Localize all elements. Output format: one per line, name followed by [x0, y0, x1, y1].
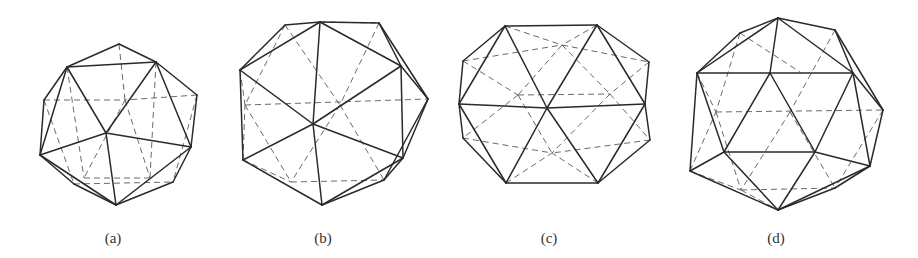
- visible-edge: [547, 108, 598, 183]
- visible-edge: [44, 67, 67, 100]
- hidden-edge: [518, 95, 552, 153]
- visible-edge: [67, 44, 119, 67]
- visible-edge: [119, 44, 156, 62]
- hidden-edge: [518, 45, 562, 95]
- visible-edge: [40, 155, 116, 205]
- polyhedra-figure: [0, 0, 918, 258]
- caption-a: (a): [105, 230, 122, 247]
- panel-d-polyhedron: [690, 18, 883, 210]
- visible-edge: [598, 140, 650, 183]
- visible-edge: [191, 95, 197, 147]
- visible-edge: [313, 22, 320, 124]
- hidden-edge: [245, 25, 285, 105]
- visible-edge: [853, 73, 870, 166]
- visible-edge: [724, 73, 770, 152]
- visible-edge: [173, 147, 191, 182]
- hidden-edge: [173, 95, 197, 182]
- visible-edge: [835, 30, 883, 110]
- hidden-edge: [716, 112, 741, 190]
- hidden-edge: [285, 25, 340, 105]
- visible-edge: [320, 22, 401, 66]
- hidden-edge: [67, 67, 84, 178]
- visible-edge: [106, 62, 156, 133]
- visible-edge: [40, 67, 67, 155]
- hidden-edge: [463, 138, 552, 153]
- hidden-edge: [697, 73, 716, 112]
- panel-a-polyhedron: [40, 44, 197, 205]
- visible-edge: [459, 104, 547, 108]
- visible-edge: [106, 133, 116, 205]
- visible-edge: [853, 73, 883, 110]
- hidden-edge: [552, 94, 610, 153]
- visible-edge: [74, 184, 116, 205]
- visible-edge: [403, 99, 428, 158]
- hidden-edge: [716, 110, 883, 112]
- hidden-edge: [119, 44, 125, 100]
- visible-edge: [243, 160, 322, 205]
- visible-edge: [506, 108, 547, 183]
- visible-edge: [690, 171, 778, 210]
- hidden-edge: [150, 62, 156, 178]
- hidden-edge: [610, 94, 650, 140]
- hidden-edge: [518, 94, 610, 95]
- visible-edge: [597, 25, 645, 104]
- hidden-edge: [463, 95, 518, 138]
- visible-edge: [547, 25, 597, 108]
- caption-b: (b): [314, 230, 332, 247]
- visible-edge: [724, 152, 778, 210]
- panel-c-polyhedron: [459, 25, 650, 183]
- hidden-edge: [790, 30, 835, 112]
- visible-edge: [459, 26, 505, 104]
- visible-edge: [116, 182, 173, 205]
- visible-edge: [778, 188, 835, 210]
- visible-edge: [384, 99, 428, 180]
- hidden-edge: [835, 110, 883, 188]
- hidden-edge: [740, 33, 800, 72]
- visible-edge: [598, 104, 645, 183]
- visible-edge: [815, 152, 870, 166]
- visible-edge: [505, 26, 547, 108]
- visible-edge: [690, 152, 724, 171]
- hidden-edge: [125, 95, 197, 100]
- visible-edge: [156, 62, 191, 147]
- panel-b-polyhedron: [240, 22, 428, 205]
- hidden-edge: [463, 45, 562, 61]
- hidden-edge: [552, 153, 598, 183]
- visible-edge: [313, 124, 403, 158]
- visible-edge: [320, 22, 379, 23]
- visible-edge: [870, 110, 883, 166]
- visible-edge: [463, 26, 505, 61]
- hidden-edge: [463, 61, 518, 95]
- visible-edge: [67, 67, 106, 133]
- caption-d: (d): [767, 230, 785, 247]
- caption-c: (c): [541, 230, 558, 247]
- visible-edge: [547, 104, 645, 108]
- visible-edge: [645, 62, 649, 104]
- visible-edge: [313, 66, 401, 124]
- hidden-edge: [506, 153, 552, 183]
- visible-edge: [463, 138, 506, 183]
- visible-edge: [697, 18, 778, 73]
- hidden-edge: [562, 45, 610, 94]
- visible-edge: [505, 25, 597, 26]
- visible-edge: [459, 104, 506, 183]
- hidden-edge: [291, 180, 384, 182]
- visible-edge: [401, 66, 428, 99]
- hidden-edge: [245, 105, 291, 182]
- visible-edge: [67, 62, 156, 67]
- visible-edge: [243, 124, 313, 160]
- visible-edge: [770, 73, 815, 152]
- visible-edge: [835, 166, 870, 188]
- hidden-edge: [74, 182, 173, 184]
- visible-edge: [770, 18, 778, 73]
- visible-edge: [322, 180, 384, 205]
- visible-edge: [106, 133, 191, 147]
- visible-edge: [379, 23, 428, 99]
- visible-edge: [697, 73, 724, 152]
- visible-edge: [815, 73, 853, 152]
- visible-edge: [40, 133, 106, 155]
- hidden-edge: [552, 140, 650, 153]
- visible-edge: [313, 124, 322, 205]
- visible-edge: [116, 147, 191, 205]
